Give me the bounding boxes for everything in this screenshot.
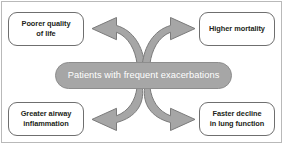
arrow-to-faster-decline-in-lung-function xyxy=(144,88,195,131)
node-faster-decline-in-lung-function: Faster declinein lung function xyxy=(199,102,275,136)
node-line-2: inflammation xyxy=(23,119,68,128)
diagram-figure: Poorer qualityof life Higher mortality G… xyxy=(0,0,285,149)
node-line-1: Faster decline xyxy=(212,109,261,118)
arrow-to-poorer-quality-of-life xyxy=(92,18,145,64)
node-line-2: of life xyxy=(36,29,55,38)
node-greater-airway-inflammation: Greater airwayinflammation xyxy=(8,102,84,136)
arrow-to-higher-mortality xyxy=(142,18,195,64)
node-label-higher-mortality: Higher mortality xyxy=(206,24,268,35)
node-label-greater-airway-inflammation: Greater airwayinflammation xyxy=(18,109,75,130)
arrow-to-greater-airway-inflammation xyxy=(92,88,143,131)
node-label-faster-decline-in-lung-function: Faster declinein lung function xyxy=(207,109,268,130)
center-node-label: Patients with frequent exacerbations xyxy=(68,70,220,81)
node-line-2: in lung function xyxy=(210,119,265,128)
node-line-1: Greater airway xyxy=(21,109,72,118)
node-label-poorer-quality-of-life: Poorer qualityof life xyxy=(19,19,74,40)
node-line-1: Poorer quality xyxy=(22,19,71,28)
node-higher-mortality: Higher mortality xyxy=(199,12,275,46)
center-node-patients-with-frequent-exacerbations: Patients with frequent exacerbations xyxy=(55,62,232,89)
node-poorer-quality-of-life: Poorer qualityof life xyxy=(8,12,84,46)
